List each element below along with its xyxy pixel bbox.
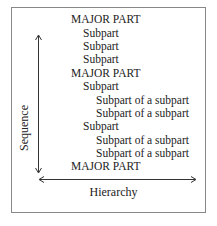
sub-subpart-item: Subpart of a subpart (96, 147, 189, 160)
subpart-item: Subpart (83, 40, 119, 53)
hierarchy-arrow-icon (39, 177, 196, 183)
sub-subpart-item: Subpart of a subpart (96, 94, 189, 107)
sub-subpart-item: Subpart of a subpart (96, 107, 189, 120)
major-part-item: MAJOR PART (71, 13, 141, 26)
sub-subpart-item: Subpart of a subpart (96, 134, 189, 147)
major-part-item: MAJOR PART (71, 160, 141, 173)
sequence-label-text: Sequence (17, 105, 32, 151)
major-part-item: MAJOR PART (71, 67, 141, 80)
subpart-item: Subpart (83, 120, 119, 133)
hierarchy-axis-label: Hierarchy (0, 185, 217, 200)
sequence-arrow-icon (36, 35, 42, 173)
subpart-item: Subpart (83, 80, 119, 93)
subpart-item: Subpart (83, 27, 119, 40)
sequence-axis-label: Sequence (14, 88, 34, 168)
subpart-item: Subpart (83, 53, 119, 66)
